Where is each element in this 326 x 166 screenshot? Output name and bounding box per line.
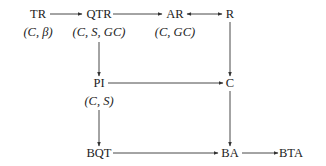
node-qtr: QTR bbox=[87, 7, 112, 21]
node-ar: AR bbox=[166, 7, 183, 21]
node-tr-sublabel: (C, β) bbox=[23, 25, 52, 39]
node-bqt: BQT bbox=[87, 146, 112, 160]
node-r: R bbox=[226, 7, 234, 21]
node-qtr-sublabel: (C, S, GC) bbox=[73, 25, 126, 39]
node-pi: PI bbox=[93, 76, 104, 90]
node-tr: TR bbox=[30, 7, 46, 21]
node-ar-sublabel: (C, GC) bbox=[155, 25, 195, 39]
node-pi-sublabel: (C, S) bbox=[84, 94, 113, 108]
node-c: C bbox=[226, 76, 234, 90]
node-ba: BA bbox=[221, 146, 238, 160]
node-bta: BTA bbox=[279, 146, 303, 160]
